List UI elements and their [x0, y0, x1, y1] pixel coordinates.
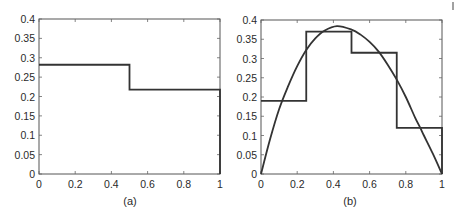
y-tick-label: 0.4	[242, 14, 257, 26]
panel-caption: (b)	[343, 195, 356, 207]
y-tick-label: 0	[29, 168, 35, 180]
x-tick-label: 0	[258, 178, 264, 190]
y-tick-label: 0.3	[242, 53, 257, 65]
x-tick-label: 0.6	[362, 178, 377, 190]
step-series	[39, 65, 220, 174]
y-tick-label: 0	[251, 168, 257, 180]
y-tick-label: 0.35	[15, 32, 36, 44]
x-tick-label: 0.6	[140, 178, 155, 190]
y-tick-label: 0.05	[15, 149, 36, 161]
x-tick-label: 0.8	[176, 178, 191, 190]
y-tick-label: 0.2	[20, 91, 35, 103]
axes-frame	[39, 19, 220, 174]
x-tick-label: 0.2	[68, 178, 83, 190]
panel-b: 00.20.40.60.8100.050.10.150.20.250.30.35…	[237, 14, 446, 207]
y-tick-label: 0.25	[15, 71, 36, 83]
x-tick-label: 0.8	[398, 178, 413, 190]
figure: 00.20.40.60.8100.050.10.150.20.250.30.35…	[0, 0, 458, 215]
x-tick-label: 1	[217, 178, 223, 190]
y-tick-label: 0.15	[15, 110, 36, 122]
y-tick-label: 0.2	[242, 91, 257, 103]
x-tick-label: 0.4	[104, 178, 119, 190]
panel-caption: (a)	[123, 195, 136, 207]
y-tick-label: 0.25	[237, 72, 258, 84]
y-tick-label: 0.1	[20, 129, 35, 141]
y-tick-label: 0.15	[237, 110, 258, 122]
y-tick-label: 0.35	[237, 33, 258, 45]
panel-a: 00.20.40.60.8100.050.10.150.20.250.30.35…	[15, 13, 224, 207]
x-tick-label: 1	[439, 178, 445, 190]
step-series	[261, 32, 442, 174]
x-tick-label: 0.2	[290, 178, 305, 190]
y-tick-label: 0.3	[20, 52, 35, 64]
x-tick-label: 0	[36, 178, 42, 190]
y-tick-label: 0.05	[237, 149, 258, 161]
x-tick-label: 0.4	[326, 178, 341, 190]
y-tick-label: 0.1	[242, 130, 257, 142]
y-tick-label: 0.4	[20, 13, 35, 25]
